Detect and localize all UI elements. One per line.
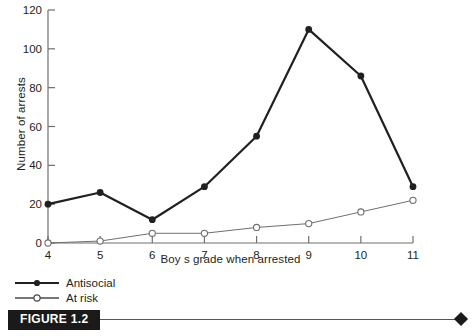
svg-text:40: 40 xyxy=(29,159,42,171)
legend-marker-open-circle-icon xyxy=(14,291,60,305)
svg-text:0: 0 xyxy=(36,237,42,249)
legend-item-antisocial: Antisocial xyxy=(14,275,214,290)
chart-series-layer xyxy=(45,26,417,246)
figure-rule-diamond-icon xyxy=(454,312,468,326)
figure-container: 020406080100120 4567891011 Number of arr… xyxy=(0,0,474,336)
chart-plot-area: 020406080100120 4567891011 Number of arr… xyxy=(0,0,474,260)
figure-caption-banner: FIGURE 1.2 xyxy=(8,310,466,330)
legend-label-antisocial: Antisocial xyxy=(66,277,115,289)
svg-text:100: 100 xyxy=(23,43,42,55)
y-axis-title: Number of arrests xyxy=(15,59,27,189)
chart-legend: Antisocial At risk xyxy=(14,275,214,305)
figure-rule-line xyxy=(100,319,457,320)
figure-number-tag: FIGURE 1.2 xyxy=(8,310,100,330)
svg-text:80: 80 xyxy=(29,82,42,94)
chart-axes xyxy=(48,10,413,243)
legend-label-at-risk: At risk xyxy=(66,292,98,304)
svg-text:60: 60 xyxy=(29,121,42,133)
line-chart: 020406080100120 4567891011 xyxy=(0,0,474,260)
figure-rule xyxy=(100,310,466,330)
y-axis-ticks xyxy=(48,10,55,243)
svg-text:20: 20 xyxy=(29,198,42,210)
legend-item-at-risk: At risk xyxy=(14,290,214,305)
x-axis-title: Boy s grade when arrested xyxy=(48,253,413,265)
legend-marker-filled-circle-icon xyxy=(14,276,60,290)
svg-text:120: 120 xyxy=(23,4,42,16)
